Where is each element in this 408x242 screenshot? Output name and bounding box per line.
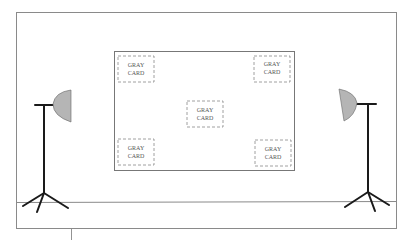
card-label-line1: GRAY — [197, 107, 214, 113]
card-label-line2: CARD — [197, 115, 214, 121]
left-light-stand — [23, 105, 68, 212]
card-label-line2: CARD — [265, 154, 282, 160]
card-label-line1: GRAY — [128, 145, 145, 151]
right-light-stand — [345, 104, 389, 211]
card-label-line1: GRAY — [128, 62, 145, 68]
card-label-line2: CARD — [264, 69, 281, 75]
right-light-head-icon — [339, 89, 357, 121]
left-light-head-icon — [53, 90, 71, 122]
lighting-diagram: GRAY CARD GRAY CARD GRAY CARD GRAY CARD … — [0, 0, 408, 242]
card-label-line1: GRAY — [265, 146, 282, 152]
card-label-line2: CARD — [128, 153, 145, 159]
card-label-line2: CARD — [128, 70, 145, 76]
floor-line — [16, 202, 397, 203]
card-label-line1: GRAY — [264, 61, 281, 67]
